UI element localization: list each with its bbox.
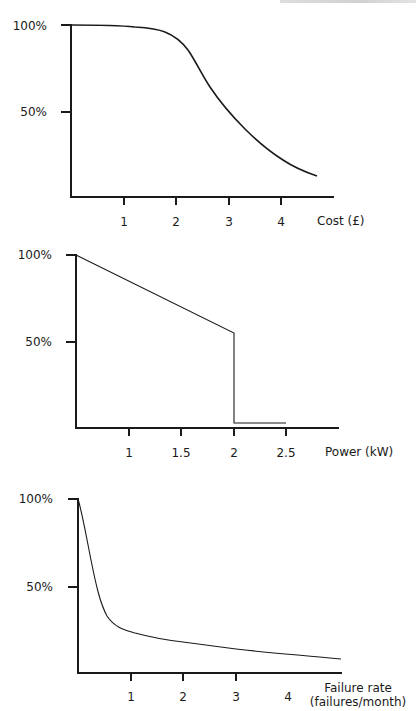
- power-chart: 100% 50% 1 1.5 2 2.5 Power (kW): [18, 248, 394, 460]
- failure-chart: 100% 50% 1 2 3 4 Failure rate (failures/…: [19, 492, 407, 709]
- cost-x-axis-title: Cost (£): [317, 214, 365, 228]
- power-x-label-2: 2: [230, 446, 238, 460]
- power-curve: [76, 255, 286, 423]
- failure-x-label-1: 1: [127, 690, 135, 704]
- cost-x-label-4: 4: [277, 215, 285, 229]
- failure-x-label-2: 2: [179, 690, 187, 704]
- cost-x-label-2: 2: [172, 215, 180, 229]
- cost-curve: [71, 25, 317, 176]
- power-y-label-50: 50%: [25, 335, 52, 349]
- failure-x-axis-title-line1: Failure rate: [324, 681, 392, 695]
- chart-canvas: 100% 50% 1 2 3 4 Cost (£) 100% 50% 1 1.5…: [0, 0, 416, 711]
- failure-x-axis-title-line2: (failures/month): [310, 695, 407, 709]
- failure-y-label-50: 50%: [26, 580, 53, 594]
- failure-x-label-4: 4: [284, 690, 292, 704]
- cost-chart: 100% 50% 1 2 3 4 Cost (£): [13, 19, 365, 229]
- power-x-axis-title: Power (kW): [325, 445, 393, 459]
- cost-x-label-3: 3: [225, 215, 233, 229]
- power-x-label-2-5: 2.5: [276, 446, 295, 460]
- failure-y-label-100: 100%: [19, 492, 53, 506]
- power-x-label-1: 1: [125, 446, 133, 460]
- cost-y-label-100: 100%: [13, 19, 47, 33]
- power-y-label-100: 100%: [18, 248, 52, 262]
- failure-curve: [78, 499, 341, 659]
- power-x-label-1-5: 1.5: [171, 446, 190, 460]
- failure-x-label-3: 3: [232, 690, 240, 704]
- cost-y-label-50: 50%: [20, 105, 47, 119]
- cost-x-label-1: 1: [120, 215, 128, 229]
